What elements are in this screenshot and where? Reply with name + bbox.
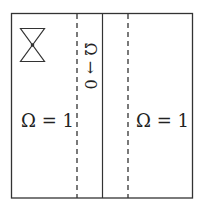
diagram-canvas xyxy=(0,0,202,210)
center-strip-label: Ω → 0 xyxy=(82,42,98,89)
hourglass-icon xyxy=(21,29,45,62)
right-region-label: Ω = 1 xyxy=(136,112,189,130)
left-region-label: Ω = 1 xyxy=(21,112,74,130)
